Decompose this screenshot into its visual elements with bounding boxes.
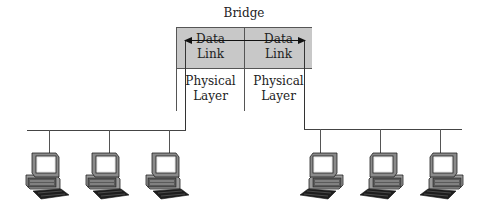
computer-icon: [146, 153, 189, 199]
computer-icon: [420, 153, 463, 199]
computer-icon: [86, 153, 129, 199]
computer-icon: [300, 153, 343, 199]
computer-icon: [360, 153, 403, 199]
network-lines: [0, 0, 482, 208]
computer-icon: [26, 153, 69, 199]
